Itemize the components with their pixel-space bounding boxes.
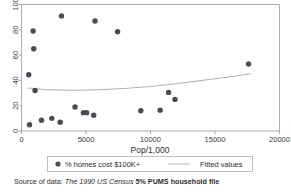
- source-note-file: PUMS household file: [146, 177, 219, 186]
- source-note-prefix: Source of data:: [14, 177, 65, 186]
- data-point: [172, 97, 177, 102]
- x-tick-label: 10000: [140, 135, 161, 144]
- fitted-values-line: [28, 74, 251, 90]
- data-point: [166, 90, 171, 95]
- data-point: [31, 46, 36, 51]
- source-note-percent: 5%: [133, 177, 146, 186]
- y-tick-label: 40: [11, 76, 20, 84]
- y-tick-label: 20: [11, 102, 20, 110]
- data-point: [32, 88, 37, 93]
- x-tick-label: 15000: [205, 135, 226, 144]
- fitted-values-polyline: [28, 74, 251, 90]
- data-point: [30, 28, 35, 33]
- x-tick-label: 20000: [269, 135, 290, 144]
- data-point: [84, 110, 89, 115]
- y-tick-label: 100: [11, 0, 20, 11]
- data-point: [26, 72, 31, 77]
- data-point: [39, 118, 44, 123]
- source-note-dataset: The 1990 US Census: [65, 177, 134, 186]
- y-tick-label: 0: [11, 129, 20, 133]
- data-point: [92, 18, 97, 23]
- data-point: [59, 13, 64, 18]
- data-point: [49, 116, 54, 121]
- y-axis-ticks: 020406080100: [11, 0, 21, 133]
- data-point: [115, 29, 120, 34]
- scatter-plot: 020406080100 05000100001500020000 Pop/1,…: [0, 0, 291, 193]
- data-point: [157, 107, 162, 112]
- x-axis-title: Pop/1,000: [131, 145, 170, 155]
- x-tick-label: 5000: [78, 135, 95, 144]
- data-point: [91, 112, 96, 117]
- y-tick-label: 60: [11, 51, 20, 59]
- y-tick-label: 80: [11, 26, 20, 34]
- legend-label-fit: Fitted values: [200, 160, 243, 169]
- x-tick-label: 0: [19, 135, 23, 144]
- data-point: [72, 104, 77, 109]
- data-points: [26, 13, 251, 127]
- plot-frame: [22, 5, 280, 132]
- data-point: [27, 122, 32, 127]
- data-point: [246, 61, 251, 66]
- legend-label-points: % homes cost $100K+: [65, 160, 141, 169]
- data-point: [138, 108, 143, 113]
- x-axis-ticks: 05000100001500020000: [19, 131, 290, 144]
- source-note: Source of data: The 1990 US Census 5% PU…: [14, 177, 219, 186]
- chart-page: 020406080100 05000100001500020000 Pop/1,…: [0, 0, 291, 193]
- legend: % homes cost $100K+ Fitted values: [48, 157, 253, 172]
- legend-marker-circle-icon: [55, 161, 60, 166]
- data-point: [58, 119, 63, 124]
